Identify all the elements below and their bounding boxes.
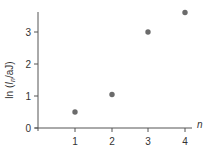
y-tick-label-2: 2	[25, 59, 31, 70]
x-axis-label: n	[197, 119, 203, 130]
data-point-n1	[72, 109, 77, 114]
y-tick-label-0: 0	[25, 123, 31, 134]
data-point-n4	[182, 10, 187, 15]
x-ticks	[75, 128, 185, 132]
y-axis-label: ln (In/aJ)	[4, 61, 16, 98]
data-point-n3	[145, 29, 150, 34]
data-points	[72, 10, 187, 115]
x-tick-label-1: 1	[72, 136, 78, 147]
data-point-n2	[109, 92, 114, 97]
x-tick-label-3: 3	[145, 136, 151, 147]
x-tick-label-4: 4	[182, 136, 188, 147]
y-tick-label-3: 3	[25, 27, 31, 38]
x-tick-label-2: 2	[109, 136, 115, 147]
y-tick-label-1: 1	[25, 91, 31, 102]
y-ticks	[34, 32, 38, 128]
scatter-chart: 0 1 2 3 1 2 3 4 n ln (In/aJ)	[0, 0, 210, 154]
